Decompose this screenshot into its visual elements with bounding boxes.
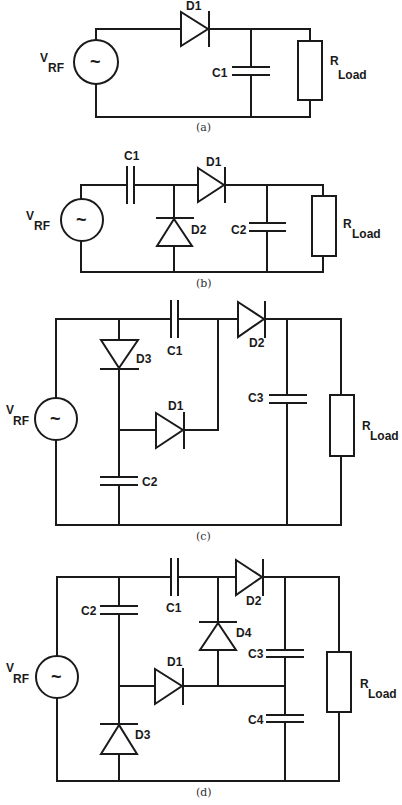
diode-d1-icon <box>198 168 225 202</box>
diode-d3-icon <box>101 724 137 754</box>
caption-b: (b) <box>196 277 212 290</box>
resistor-load-icon <box>330 395 354 456</box>
d1-label: D1 <box>206 155 222 169</box>
wire <box>56 441 341 525</box>
d2-label: D2 <box>246 594 262 608</box>
rload-label-sub: Load <box>370 429 399 443</box>
d3-label: D3 <box>135 728 151 742</box>
wire <box>96 84 310 117</box>
circuit-a: ~ V RF D1 C1 R Load (a) <box>40 0 367 134</box>
sine-symbol: ~ <box>76 210 87 230</box>
wire <box>225 185 323 196</box>
capacitor-c2-icon <box>101 606 137 614</box>
source-label: V <box>40 51 48 65</box>
diode-d1-icon <box>181 12 209 46</box>
capacitor-c4-icon <box>267 715 303 722</box>
wire <box>210 29 310 41</box>
c1-label: C1 <box>212 66 228 80</box>
capacitor-c1-icon <box>171 559 178 595</box>
c3-label: C3 <box>248 391 264 405</box>
c1-label: C1 <box>167 344 183 358</box>
d3-label: D3 <box>136 352 152 366</box>
rload-label-sub: Load <box>338 68 367 82</box>
wire <box>264 577 339 652</box>
c2-label: C2 <box>142 475 158 489</box>
d1-label: D1 <box>168 399 184 413</box>
rload-label: R <box>343 217 352 231</box>
c3-label: C3 <box>248 647 264 661</box>
source-label-sub: RF <box>13 414 29 428</box>
c2-label: C2 <box>231 223 247 237</box>
circuit-d: ~ V RF C1 D2 C2 D4 D1 <box>6 559 397 799</box>
wire <box>266 319 341 395</box>
wire <box>57 699 339 781</box>
capacitor-c2-icon <box>250 223 285 231</box>
diode-d4-icon <box>200 622 236 650</box>
wire <box>57 577 171 656</box>
circuit-c: ~ V RF C1 D2 D3 D1 C2 <box>6 301 399 543</box>
wire <box>184 319 218 430</box>
c4-label: C4 <box>248 713 264 727</box>
d2-label: D2 <box>249 336 265 350</box>
d1-label: D1 <box>186 0 202 13</box>
source-label-sub: RF <box>34 219 50 233</box>
sine-symbol: ~ <box>90 52 101 72</box>
capacitor-c1-icon <box>233 67 269 75</box>
wire <box>81 240 323 272</box>
diode-d2-icon <box>157 218 193 246</box>
d4-label: D4 <box>236 626 252 640</box>
rectifier-circuit-figure: ~ V RF D1 C1 R Load (a) ~ V RF <box>0 0 402 805</box>
capacitor-c3-icon <box>267 650 303 657</box>
capacitor-c3-icon <box>270 395 306 403</box>
sine-symbol: ~ <box>51 667 62 687</box>
resistor-load-icon <box>298 41 322 100</box>
sine-symbol: ~ <box>50 409 61 429</box>
capacitor-c1-icon <box>127 167 134 203</box>
diode-d3-icon <box>101 340 138 369</box>
diode-d2-icon <box>238 302 265 337</box>
caption-c: (c) <box>196 530 211 543</box>
source-label: V <box>26 209 34 223</box>
circuit-b: ~ V RF C1 D1 D2 C2 R Load (b) <box>26 149 381 290</box>
capacitor-c1-icon <box>171 301 178 337</box>
source-label-sub: RF <box>48 61 64 75</box>
source-label-sub: RF <box>13 672 29 686</box>
diode-d2-icon <box>236 560 263 595</box>
d1-label: D1 <box>167 655 183 669</box>
diode-d1-icon <box>156 413 184 448</box>
rload-label-sub: Load <box>352 227 381 241</box>
capacitor-c2-icon <box>101 477 137 485</box>
c2-label: C2 <box>81 604 97 618</box>
rload-label: R <box>330 54 339 68</box>
rload-label-sub: Load <box>368 687 397 701</box>
wire <box>96 29 181 40</box>
wire <box>81 185 126 200</box>
caption-a: (a) <box>196 121 211 134</box>
diode-d1-icon <box>155 669 183 704</box>
resistor-load-icon <box>312 196 336 256</box>
resistor-load-icon <box>327 652 351 712</box>
c1-label: C1 <box>124 149 140 163</box>
d2-label: D2 <box>191 223 207 237</box>
caption-d: (d) <box>196 786 212 799</box>
c1-label: C1 <box>166 601 182 615</box>
